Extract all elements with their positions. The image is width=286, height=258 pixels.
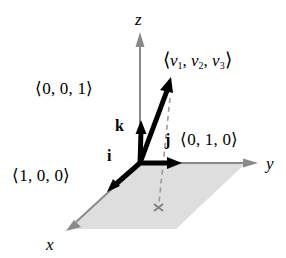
y-axis-arrowhead: [243, 159, 258, 168]
vector-diagram-figure: z y x ⟨v1, v2, v3⟩ ⟨0, 0, 1⟩ k j ⟨0, 1, …: [0, 0, 286, 258]
unit-vector-j-label: j: [165, 132, 170, 148]
vector-subscript-3: 3: [220, 60, 225, 71]
x-axis-label: x: [46, 236, 54, 253]
y-axis-label: y: [266, 155, 274, 172]
vector-subscript-2: 2: [199, 60, 204, 71]
unit-vector-i-label: i: [107, 148, 111, 164]
unit-vector-j-components-label: ⟨0, 1, 0⟩: [180, 131, 238, 148]
vector-symbol-v2: v: [191, 51, 199, 70]
vector-symbol-v1: v: [170, 51, 178, 70]
unit-vector-i-components-label: ⟨1, 0, 0⟩: [12, 167, 70, 184]
unit-vector-k-components-label: ⟨0, 0, 1⟩: [35, 80, 93, 97]
vector-close-bracket: ⟩: [225, 49, 232, 70]
vector-comma-1: ,: [183, 51, 187, 70]
diagram-canvas: [0, 0, 286, 258]
vector-symbol-v3: v: [212, 51, 220, 70]
vector-subscript-1: 1: [178, 60, 183, 71]
unit-vector-k-label: k: [115, 118, 124, 134]
z-axis-arrowhead: [136, 32, 145, 47]
vector-open-bracket: ⟨: [163, 49, 170, 70]
vector-comma-2: ,: [204, 51, 208, 70]
xy-plane-shaded-region: [69, 163, 246, 229]
z-axis-label: z: [135, 11, 142, 28]
vector-v-label: ⟨v1, v2, v3⟩: [163, 50, 232, 69]
